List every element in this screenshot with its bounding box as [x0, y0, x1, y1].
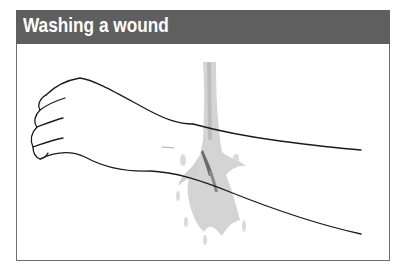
washing-wound-illustration: [0, 0, 406, 274]
water-stream-icon: [176, 62, 246, 245]
